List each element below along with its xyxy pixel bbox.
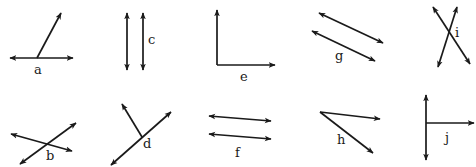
figure-b: b [11,123,76,164]
figure-label-g: g [335,48,343,63]
figure-label-h: h [337,132,346,147]
figure-f: f [209,116,271,160]
figure-a: a [10,13,73,77]
diagram-svg: acegibdfhj [0,0,476,167]
ray-d-1 [122,104,142,137]
figure-e: e [217,10,275,84]
ray-h-1 [320,112,373,153]
figure-h: h [320,112,380,153]
figure-label-b: b [46,148,54,163]
line-i-0 [433,7,470,64]
line-f-0 [209,116,271,121]
figure-label-j: j [443,130,449,145]
line-d-0 [111,112,171,165]
figure-label-f: f [235,145,241,160]
figure-i: i [433,7,470,67]
ray-a-1 [37,13,61,58]
figure-c: c [127,13,155,70]
figure-label-a: a [34,62,42,77]
figure-g: g [312,13,383,63]
figure-label-i: i [455,25,459,40]
figure-label-d: d [143,136,151,151]
line-f-1 [209,134,271,139]
figure-label-c: c [148,32,155,47]
geometry-diagram: acegibdfhj [0,0,476,167]
figure-d: d [111,104,171,165]
figure-j: j [426,95,474,160]
figure-label-e: e [240,69,248,84]
